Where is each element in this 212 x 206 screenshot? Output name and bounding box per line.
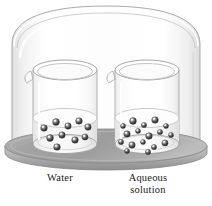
particle-highlight <box>83 135 85 136</box>
particle <box>164 124 169 129</box>
particle-highlight <box>126 150 128 151</box>
particle <box>47 135 54 142</box>
beaker-water-rim-inner <box>38 64 93 80</box>
particle <box>130 118 137 125</box>
particle <box>41 125 48 132</box>
particle <box>59 132 65 138</box>
particle <box>53 119 60 126</box>
particle-highlight <box>163 141 165 142</box>
particle <box>76 118 83 125</box>
particle-highlight <box>153 118 155 119</box>
particle-highlight <box>146 150 148 151</box>
particle-highlight <box>54 120 56 121</box>
beaker-aqueous-solution <box>107 60 179 155</box>
particle-highlight <box>142 141 144 142</box>
particle-highlight <box>137 130 139 131</box>
particle <box>118 139 123 144</box>
particle-highlight <box>55 145 57 146</box>
particle-highlight <box>77 119 79 120</box>
particle <box>65 123 71 129</box>
particle <box>151 144 156 149</box>
particle-highlight <box>158 130 160 131</box>
particle <box>162 140 168 146</box>
particle <box>145 149 150 154</box>
particle-highlight <box>86 125 88 126</box>
particle-highlight <box>152 145 154 146</box>
particle-highlight <box>147 134 149 135</box>
particle <box>85 124 91 130</box>
particle-highlight <box>165 125 167 126</box>
particle-highlight <box>130 143 132 144</box>
label-water: Water <box>24 172 96 184</box>
particle <box>141 140 146 145</box>
particle-highlight <box>48 136 50 137</box>
particle-highlight <box>122 125 124 126</box>
beaker-aqueous-rim-inner <box>120 64 175 80</box>
particle <box>136 129 141 134</box>
particle-highlight <box>131 119 133 120</box>
particle <box>124 131 130 137</box>
particle-highlight <box>66 124 68 125</box>
particle-highlight <box>125 132 127 133</box>
particle <box>146 133 153 140</box>
particle-highlight <box>60 133 62 134</box>
particle <box>82 134 88 140</box>
particle-highlight <box>73 138 75 139</box>
particle <box>121 124 126 129</box>
particle-highlight <box>142 123 144 124</box>
figure-root: Water Aqueous solution <box>0 0 212 206</box>
beaker-water <box>25 60 97 154</box>
particle <box>169 133 174 138</box>
particle-highlight <box>42 126 44 127</box>
particle-highlight <box>170 134 172 135</box>
label-aqueous-solution: Aqueous solution <box>112 172 184 196</box>
particle <box>129 142 135 148</box>
particle <box>125 149 130 154</box>
particle <box>157 129 162 134</box>
particle <box>72 137 79 144</box>
particle <box>54 144 61 151</box>
particle-highlight <box>119 140 121 141</box>
particle <box>152 117 159 124</box>
particle <box>141 122 146 127</box>
